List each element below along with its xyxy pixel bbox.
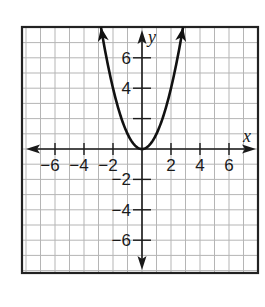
y-tick-label: −6 — [112, 231, 131, 250]
x-tick-label: −4 — [69, 156, 88, 175]
y-tick-label: 4 — [122, 79, 131, 98]
x-tick-label: 2 — [166, 156, 175, 175]
x-tick-label: 6 — [224, 156, 233, 175]
y-axis-label: y — [146, 27, 156, 47]
y-tick-label: −4 — [112, 201, 131, 220]
y-tick-label: 6 — [122, 49, 131, 68]
x-tick-label: −6 — [40, 156, 59, 175]
y-tick-label: −2 — [112, 170, 131, 189]
x-axis-label: x — [242, 126, 251, 146]
parabola-graph: −6−4−2246 64−2−4−6 x y — [0, 0, 265, 307]
x-tick-labels: −6−4−2246 — [40, 156, 233, 175]
x-tick-label: 4 — [195, 156, 204, 175]
